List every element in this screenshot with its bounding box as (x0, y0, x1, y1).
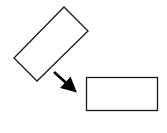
aligned-rectangle (87, 78, 158, 111)
rotated-rectangle (14, 7, 88, 81)
transform-arrow (54, 72, 74, 90)
diagram-canvas (0, 0, 167, 133)
